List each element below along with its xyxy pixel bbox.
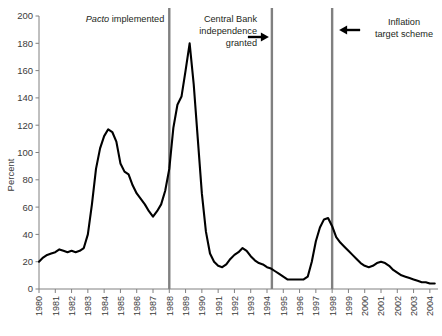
x-tick-label: 1993 xyxy=(246,296,256,316)
y-tick-label: 60 xyxy=(22,202,33,213)
chart-background xyxy=(0,0,442,336)
x-tick-label: 1996 xyxy=(295,296,305,316)
y-tick-label: 180 xyxy=(17,38,33,49)
x-tick-label: 1983 xyxy=(83,296,93,316)
y-tick-label: 160 xyxy=(17,65,33,76)
x-tick-label: 2004 xyxy=(425,296,435,316)
chart-canvas: 020406080100120140160180200 198019811982… xyxy=(0,0,442,336)
x-tick-label: 1986 xyxy=(132,296,142,316)
y-tick-label: 100 xyxy=(17,147,33,158)
central-bank-line-2: independence xyxy=(185,25,257,37)
y-tick-label: 120 xyxy=(17,120,33,131)
inflation-target-annotation: Inflation target scheme xyxy=(370,16,438,40)
y-tick-label: 140 xyxy=(17,92,33,103)
x-tick-label: 1984 xyxy=(100,296,110,316)
pacto-annotation-italic: Pacto xyxy=(86,14,110,24)
x-tick-label: 1995 xyxy=(279,296,289,316)
x-tick-label: 1982 xyxy=(67,296,77,316)
x-tick-label: 1987 xyxy=(148,296,158,316)
x-tick-label: 1991 xyxy=(214,296,224,316)
x-tick-label: 1990 xyxy=(197,296,207,316)
y-tick-label: 200 xyxy=(17,10,33,21)
y-tick-label: 0 xyxy=(28,283,33,294)
x-tick-label: 1997 xyxy=(311,296,321,316)
inflation-target-line-1: Inflation xyxy=(370,16,438,28)
x-tick-label: 2000 xyxy=(360,296,370,316)
y-tick-label: 40 xyxy=(22,229,33,240)
pacto-annotation-rest: implemented xyxy=(109,14,164,24)
x-tick-label: 2003 xyxy=(409,296,419,316)
x-tick-label: 1994 xyxy=(262,296,272,316)
x-tick-label: 1999 xyxy=(344,296,354,316)
y-tick-label: 80 xyxy=(22,174,33,185)
x-tick-label: 2001 xyxy=(376,296,386,316)
central-bank-line-1: Central Bank xyxy=(185,13,257,25)
x-tick-label: 1985 xyxy=(116,296,126,316)
x-tick-label: 1988 xyxy=(165,296,175,316)
x-tick-label: 1981 xyxy=(51,296,61,316)
central-bank-line-3: granted xyxy=(185,37,257,49)
inflation-line-chart: 020406080100120140160180200 198019811982… xyxy=(0,0,442,336)
x-tick-label: 1980 xyxy=(34,296,44,316)
x-tick-label: 2002 xyxy=(393,296,403,316)
y-axis-title: Percent xyxy=(5,158,16,191)
central-bank-annotation: Central Bank independence granted xyxy=(185,13,257,49)
inflation-target-line-2: target scheme xyxy=(370,28,438,40)
x-tick-label: 1989 xyxy=(181,296,191,316)
x-tick-label: 1998 xyxy=(328,296,338,316)
x-tick-label: 1992 xyxy=(230,296,240,316)
pacto-annotation: Pacto implemented xyxy=(66,14,184,24)
y-tick-label: 20 xyxy=(22,256,33,267)
